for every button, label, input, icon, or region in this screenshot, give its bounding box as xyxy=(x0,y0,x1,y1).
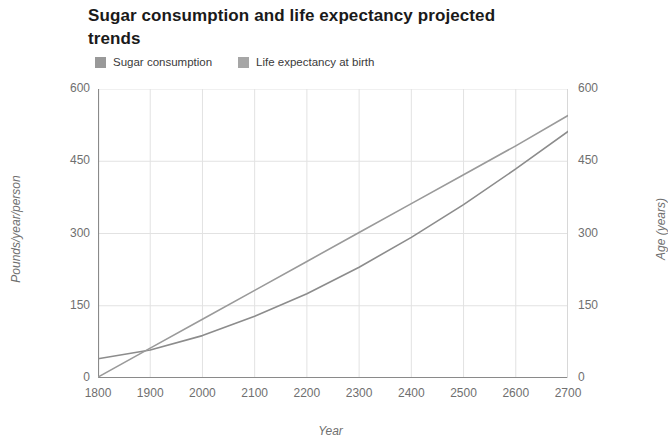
plot-svg xyxy=(98,89,568,378)
y-tick-label-left: 150 xyxy=(44,298,90,312)
x-tick-label: 1800 xyxy=(76,386,120,400)
y-tick-label-left: 450 xyxy=(44,153,90,167)
legend-label: Sugar consumption xyxy=(113,56,212,68)
y-tick-label-right: 600 xyxy=(578,81,624,95)
x-tick-label: 2300 xyxy=(337,386,381,400)
x-tick-label: 1900 xyxy=(128,386,172,400)
x-tick-label: 2400 xyxy=(389,386,433,400)
y-tick-label-left: 0 xyxy=(44,370,90,384)
y-axis-title-right: Age (years) xyxy=(654,185,668,273)
series-line-1 xyxy=(98,115,568,377)
plot-area xyxy=(98,89,568,378)
x-tick-label: 2500 xyxy=(442,386,486,400)
x-tick-label: 2600 xyxy=(494,386,538,400)
x-tick-label: 2000 xyxy=(180,386,224,400)
legend-item-sugar-consumption[interactable]: Sugar consumption xyxy=(95,56,212,68)
x-axis-title: Year xyxy=(0,424,661,438)
x-tick-label: 2200 xyxy=(285,386,329,400)
y-tick-label-right: 0 xyxy=(578,370,624,384)
x-tick-label: 2100 xyxy=(233,386,277,400)
y-tick-label-left: 600 xyxy=(44,81,90,95)
series-line-0 xyxy=(98,131,568,358)
y-tick-label-right: 450 xyxy=(578,153,624,167)
legend-item-life-expectancy[interactable]: Life expectancy at birth xyxy=(238,56,374,68)
legend-swatch-icon xyxy=(238,57,249,68)
legend-swatch-icon xyxy=(95,57,106,68)
y-tick-label-right: 150 xyxy=(578,298,624,312)
y-tick-label-right: 300 xyxy=(578,226,624,240)
y-tick-label-left: 300 xyxy=(44,226,90,240)
chart-legend: Sugar consumption Life expectancy at bir… xyxy=(95,56,374,68)
legend-label: Life expectancy at birth xyxy=(256,56,374,68)
y-axis-title-left: Pounds/year/person xyxy=(9,169,23,289)
x-tick-label: 2700 xyxy=(546,386,590,400)
chart-title: Sugar consumption and life expectancy pr… xyxy=(88,4,508,50)
